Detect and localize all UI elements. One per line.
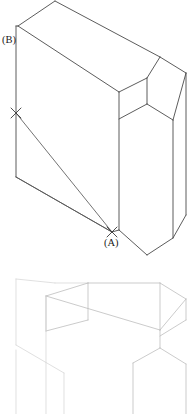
ghost-edge-lower-front-diag [133,348,160,363]
ghost-edge-step-lower-diag [160,320,186,336]
ghost-edge-bottom-diag [16,345,64,373]
label-point-a: (A) [104,237,119,249]
label-point-b: (B) [2,34,17,46]
face-right-lower [119,104,173,255]
ghost-edge-top-front [46,296,160,330]
technical-drawing-canvas: (B) (A) [0,0,194,414]
solid-figure-group [16,1,186,255]
ghost-edge-notch-bottom [46,320,88,331]
ghost-figure-group [16,279,186,414]
ghost-edge-lower-rear [160,348,186,364]
ghost-edge-top-left [46,283,88,296]
ghost-edge-step-rear [160,283,186,299]
isometric-drawing-svg: (B) (A) [0,0,194,414]
ghost-edge-step-diag [160,299,186,330]
ghost-edge-top-back-left [16,279,55,283]
